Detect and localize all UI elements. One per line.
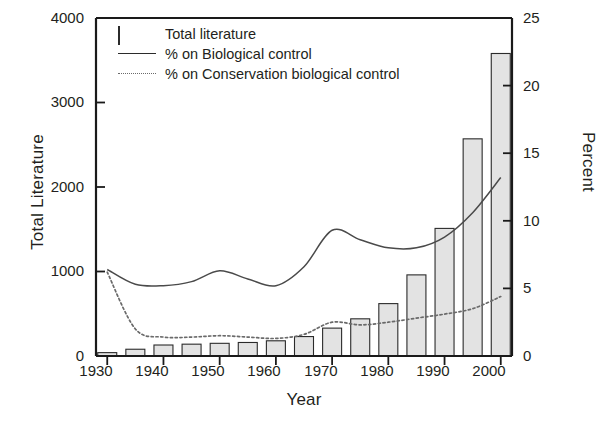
bar-1970 (323, 328, 342, 356)
bar-1990 (435, 228, 454, 356)
bar-1980 (379, 304, 398, 356)
bar-1965 (295, 337, 314, 356)
bar-series-total-literature (98, 53, 511, 356)
bar-1985 (407, 275, 426, 356)
chart-figure: Total Literature Percent Year 4000 3000 … (0, 0, 615, 434)
bar-1960 (266, 341, 285, 356)
plot-area (0, 0, 615, 434)
bar-1940 (154, 345, 173, 356)
bar-1995 (463, 139, 482, 356)
bar-1950 (210, 343, 229, 356)
bar-1955 (238, 342, 257, 356)
bar-2000 (491, 53, 510, 356)
bar-1945 (182, 344, 201, 356)
